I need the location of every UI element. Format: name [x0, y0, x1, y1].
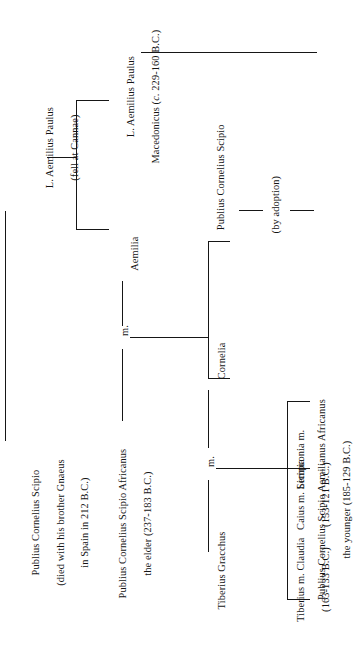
node-africanus-elder-line2: the elder (237-183 B.C.): [142, 471, 153, 575]
node-publius-cornelius-scipio: Publius Cornelius Scipio: [203, 61, 240, 241]
node-tiberius-gracchus-son-line1: Tiberius m. Claudia: [295, 538, 306, 622]
node-tiberius-gracchus: Tiberius Gracchus: [204, 490, 241, 620]
node-aemilia-label: Aemilia: [129, 237, 140, 271]
adoption-label: (by adoption): [258, 167, 295, 253]
node-paulus-macedonicus: L. Aemilius Paulus Macedonicus (c. 229-1…: [113, 2, 174, 202]
arm-to-publius-cornelius-scipio: [208, 241, 230, 242]
node-tiberius-gracchus-son-line2: (163-133 B.C.): [320, 547, 331, 612]
node-scipio-elder-gen1: Publius Cornelius Scipio (died with his …: [18, 422, 104, 634]
node-scipio-elder-gen1-line2: (died with his brother Gnaeus: [55, 459, 66, 585]
cornelia-descender: [208, 390, 209, 448]
node-tiberius-gracchus-label: Tiberius Gracchus: [216, 532, 227, 610]
family-tree-diagram: L. Aemilius Paulus (fell at Cannae) Publ…: [0, 0, 364, 665]
aemilia-descender: [122, 281, 123, 326]
node-scipio-elder-gen1-line3: in Spain in 212 B.C.): [79, 477, 90, 567]
node-aemilia: Aemilia: [117, 211, 154, 281]
node-cornelia-label: Cornelia: [216, 343, 227, 380]
node-tiberius-gracchus-son: Tiberius m. Claudia (163-133 B.C.): [283, 510, 344, 660]
node-paulus-macedonicus-line2: Macedonicus (c. 229-160 B.C.): [150, 30, 161, 164]
africanus-elder-ascender: [122, 349, 123, 421]
generation-1-separator-rule: [5, 211, 6, 441]
node-paulus-elder-line1: L. Aemilius Paulus: [44, 107, 55, 188]
node-paulus-elder: L. Aemilius Paulus (fell at Cannae): [32, 48, 93, 258]
node-scipio-elder-gen1-line1: Publius Cornelius Scipio: [30, 470, 41, 576]
node-paulus-elder-line2: (fell at Cannae): [69, 115, 80, 181]
marriage-1-label: m.: [107, 325, 144, 347]
node-africanus-elder-line1: Publius Cornelius Scipio Africanus: [117, 449, 128, 599]
node-cornelia: Cornelia: [204, 320, 241, 390]
marriage-2-label: m.: [193, 456, 230, 478]
node-paulus-macedonicus-line1: L. Aemilius Paulus: [125, 56, 136, 137]
node-publius-cornelius-scipio-label: Publius Cornelius Scipio: [215, 124, 226, 230]
node-africanus-elder: Publius Cornelius Scipio Africanus the e…: [105, 414, 166, 644]
